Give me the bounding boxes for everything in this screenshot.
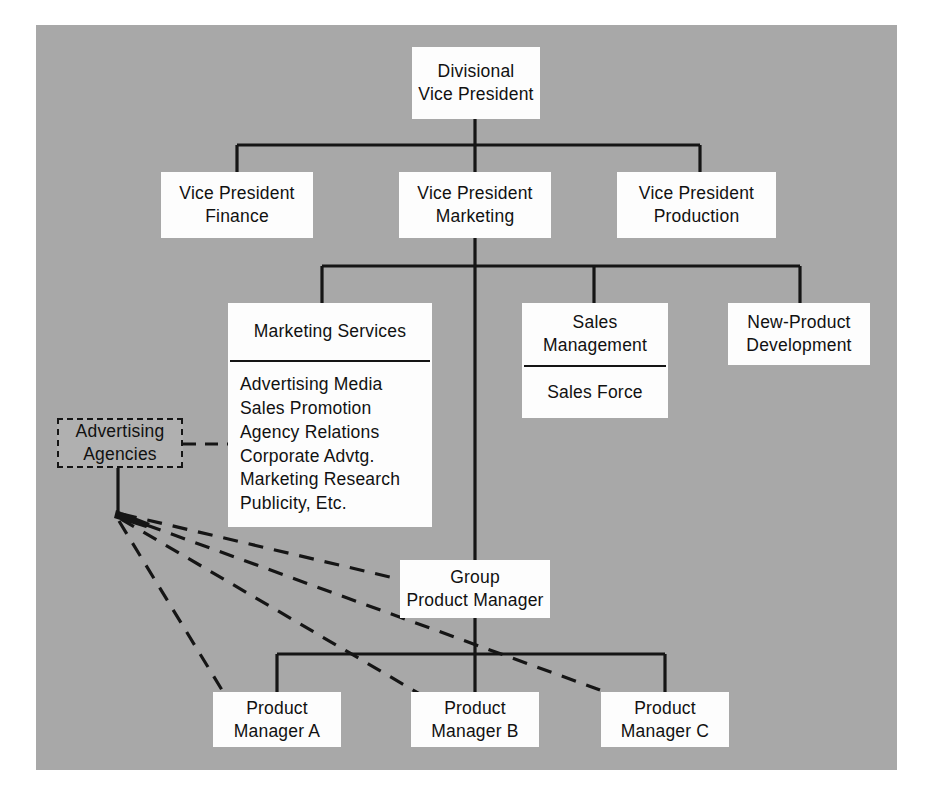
node-vice-president-finance[interactable]: Vice President Finance — [161, 172, 313, 238]
node-label-line2: Vice President — [418, 83, 533, 106]
node-label-line2: Manager B — [431, 720, 518, 743]
node-vice-president-production[interactable]: Vice President Production — [617, 172, 776, 238]
node-sales-management[interactable]: Sales Management Sales Force — [522, 303, 668, 418]
list-item: Sales Force — [547, 381, 643, 405]
node-new-product-development[interactable]: New-Product Development — [728, 303, 870, 365]
node-label-line1: Vice President — [179, 182, 294, 205]
list-item: Publicity, Etc. — [240, 492, 347, 516]
list-item: Marketing Research — [240, 468, 400, 492]
node-label-line1: New-Product — [747, 311, 850, 334]
list-item: Agency Relations — [240, 421, 379, 445]
node-label-line2: Production — [654, 205, 740, 228]
node-label-line2: Finance — [205, 205, 269, 228]
node-label-line2: Marketing — [436, 205, 515, 228]
sales-management-header: Sales Management — [522, 303, 668, 365]
marketing-services-title: Marketing Services — [254, 320, 406, 343]
node-product-manager-a[interactable]: Product Manager A — [213, 692, 341, 747]
node-label-line2: Product Manager — [406, 589, 543, 612]
node-divisional-vice-president[interactable]: Divisional Vice President — [412, 47, 540, 119]
connector-lines — [0, 0, 929, 804]
node-group-product-manager[interactable]: Group Product Manager — [400, 560, 550, 618]
node-advertising-agencies[interactable]: Advertising Agencies — [57, 418, 183, 468]
marketing-services-header: Marketing Services — [228, 303, 432, 360]
list-item: Corporate Advtg. — [240, 445, 375, 469]
node-vice-president-marketing[interactable]: Vice President Marketing — [399, 172, 551, 238]
node-product-manager-b[interactable]: Product Manager B — [411, 692, 539, 747]
node-label-line2: Manager A — [234, 720, 320, 743]
node-label-line2: Agencies — [83, 443, 157, 466]
node-label-line1: Product — [444, 697, 506, 720]
node-label-line1: Product — [634, 697, 696, 720]
node-product-manager-c[interactable]: Product Manager C — [601, 692, 729, 747]
sales-management-items: Sales Force — [522, 367, 668, 418]
list-item: Sales Promotion — [240, 397, 371, 421]
node-label-line1: Advertising — [76, 420, 165, 443]
node-label-line1: Group — [450, 566, 500, 589]
sales-management-title-line1: Sales — [573, 311, 618, 334]
sales-management-title-line2: Management — [543, 334, 647, 357]
node-marketing-services[interactable]: Marketing Services Advertising Media Sal… — [228, 303, 432, 527]
node-label-line2: Development — [746, 334, 851, 357]
node-label-line1: Product — [246, 697, 308, 720]
node-label-line1: Vice President — [639, 182, 754, 205]
org-chart-page: Divisional Vice President Vice President… — [0, 0, 929, 804]
list-item: Advertising Media — [240, 373, 383, 397]
node-label-line1: Vice President — [417, 182, 532, 205]
node-label-line1: Divisional — [438, 60, 515, 83]
node-label-line2: Manager C — [621, 720, 709, 743]
marketing-services-items: Advertising Media Sales Promotion Agency… — [228, 362, 432, 527]
